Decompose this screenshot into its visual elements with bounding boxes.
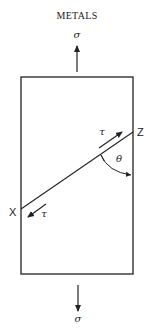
point-x-label: X	[9, 206, 17, 218]
theta-label: θ	[116, 153, 122, 164]
tau-upper-label: τ	[99, 126, 105, 137]
sigma-bottom-label: σ	[75, 313, 83, 324]
specimen-outline	[21, 77, 133, 274]
sigma-top-label: σ	[74, 29, 82, 40]
slip-plane-diagram: METALS σ Z X τ τ θ σ	[0, 0, 151, 334]
tau-lower-label: τ	[41, 208, 47, 219]
diagram-title: METALS	[57, 10, 98, 21]
point-z-label: Z	[137, 126, 144, 138]
